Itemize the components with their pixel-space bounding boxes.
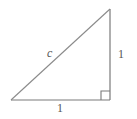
- right-triangle-figure: c 1 1: [0, 0, 137, 119]
- right-angle-marker-icon: [101, 91, 110, 100]
- horizontal-leg-label: 1: [57, 102, 63, 114]
- triangle-drawing: [0, 0, 137, 119]
- hypotenuse-line: [11, 9, 110, 100]
- vertical-leg-label: 1: [118, 48, 124, 60]
- hypotenuse-label: c: [47, 47, 52, 59]
